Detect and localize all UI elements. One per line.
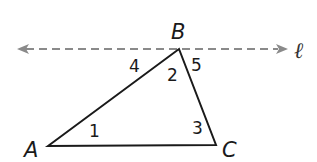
vertex-label-c: C bbox=[222, 138, 237, 162]
line-l bbox=[17, 44, 288, 54]
vertex-label-a: A bbox=[22, 138, 38, 162]
angle-label-4: 4 bbox=[129, 56, 140, 76]
angle-label-2: 2 bbox=[167, 65, 178, 85]
angle-label-5: 5 bbox=[191, 55, 202, 75]
angle-label-1: 1 bbox=[89, 121, 100, 141]
vertex-label-b: B bbox=[171, 20, 185, 44]
line-label-l: ℓ bbox=[294, 38, 304, 63]
diagram-canvas: B A C ℓ 1 2 3 4 5 bbox=[0, 0, 317, 162]
angle-label-3: 3 bbox=[192, 118, 203, 138]
